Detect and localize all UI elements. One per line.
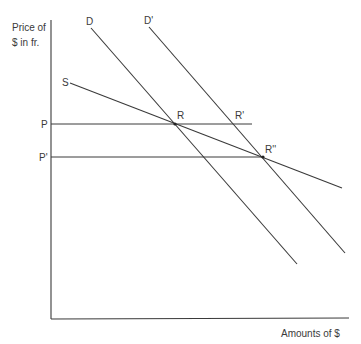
price-label-p-prime: P' [39,152,48,163]
point-r-double-prime-label: R'' [265,144,276,155]
supply-demand-diagram: Price of $ in fr. Amounts of $ P P' D D'… [0,0,361,344]
point-r-prime-label: R' [235,110,244,121]
demand-curve-d-prime [149,27,345,253]
supply-curve-s [70,83,342,188]
point-r-label: R [177,110,184,121]
price-label-p: P [41,119,48,130]
supply-curve-label: S [62,77,69,88]
point-r-marker [173,122,176,125]
y-axis-label-line1: Price of [12,22,46,33]
demand-curve-label: D [86,16,93,27]
point-r-double-prime-marker [261,155,264,158]
x-axis-label: Amounts of $ [281,328,340,339]
y-axis-label-line2: $ in fr. [12,37,39,48]
x-axis [51,318,349,319]
demand-shifted-curve-label: D' [144,15,153,26]
